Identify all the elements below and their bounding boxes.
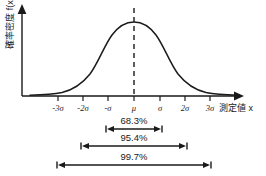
normal-distribution-figure: -3σ -2σ -σ μ σ 2σ 3σ 測定値 x 68.3% 95.4% [0,0,266,176]
span-95-4: 95.4% [81,132,187,150]
span-label-95-4: 95.4% [121,132,148,143]
span-right-arrow-icon-68-3 [154,126,161,132]
x-axis-label: 測定値 x [219,102,254,113]
span-label-68-3: 68.3% [121,115,148,126]
figure-canvas: -3σ -2σ -σ μ σ 2σ 3σ 測定値 x 68.3% 95.4% [0,0,266,176]
span-left-arrow-icon-68-3 [107,126,114,132]
span-68-3: 68.3% [106,115,162,133]
span-label-99-7: 99.7% [121,151,148,162]
span-right-arrow-icon-95-4 [179,143,186,149]
x-axis-tick-labels: -3σ -2σ -σ μ σ 2σ 3σ [52,103,215,113]
span-99-7: 99.7% [57,151,211,169]
tick-label-plus-1sigma: σ [158,103,163,113]
tick-label-minus-1sigma: -σ [104,103,112,113]
span-left-arrow-icon-95-4 [82,143,89,149]
tick-label-minus-2sigma: -2σ [77,103,89,113]
tick-label-mu: μ [131,103,136,113]
y-axis [18,4,27,96]
x-axis-ticks [58,96,210,101]
span-left-arrow-icon-99-7 [58,162,65,168]
x-axis-arrow-icon [234,92,244,101]
tick-label-plus-3sigma: 3σ [205,103,215,113]
tick-label-plus-2sigma: 2σ [181,103,190,113]
tick-label-minus-3sigma: -3σ [52,103,64,113]
y-axis-label: 確率密度 f(x) [3,0,17,63]
y-axis-arrow-icon [18,4,27,14]
span-right-arrow-icon-99-7 [203,162,210,168]
